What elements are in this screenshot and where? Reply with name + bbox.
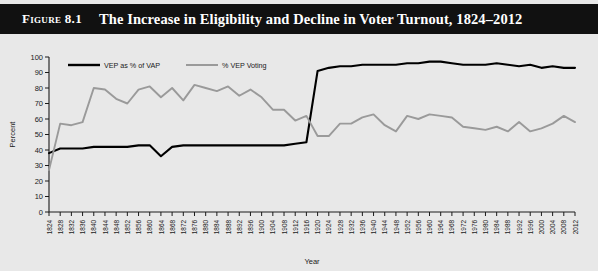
legend-label-1: VEP as % of VAP — [104, 61, 160, 70]
x-axis-tick-label: 1984 — [493, 220, 500, 235]
y-axis-tick-label: 60 — [35, 115, 43, 124]
y-axis-tick-label: 20 — [35, 177, 43, 186]
x-axis-tick-label: 1944 — [381, 220, 388, 235]
x-axis-tick-label: 1868 — [169, 220, 176, 235]
x-axis-tick-label: 1988 — [504, 220, 511, 235]
y-axis-tick-label: 70 — [35, 99, 43, 108]
y-axis-tick-label: 50 — [35, 130, 43, 139]
x-axis-tick-label: 1856 — [135, 220, 142, 235]
chart-plot-area: 0102030405060708090100Percent18241828183… — [0, 34, 598, 271]
x-axis-tick-label: 1908 — [281, 220, 288, 235]
x-axis-tick-label: 1956 — [415, 220, 422, 235]
x-axis-tick-label: 1828 — [57, 220, 64, 235]
x-axis-tick-label: 1980 — [482, 220, 489, 235]
y-axis-tick-label: 80 — [35, 84, 43, 93]
x-axis-tick-label: 2012 — [572, 220, 579, 235]
x-axis-title: Year — [304, 257, 320, 266]
x-axis-tick-label: 1852 — [124, 220, 131, 235]
x-axis-tick-label: 1884 — [213, 220, 220, 235]
x-axis-tick-label: 1960 — [426, 220, 433, 235]
x-axis-tick-label: 1912 — [292, 220, 299, 235]
x-axis-tick-label: 1900 — [258, 220, 265, 235]
x-axis-tick-label: 1996 — [527, 220, 534, 235]
x-axis-tick-label: 1896 — [247, 220, 254, 235]
y-axis-tick-label: 10 — [35, 192, 43, 201]
x-axis-tick-label: 1968 — [448, 220, 455, 235]
y-axis-tick-label: 90 — [35, 68, 43, 77]
x-axis-tick-label: 1860 — [146, 220, 153, 235]
x-axis-tick-label: 1844 — [102, 220, 109, 235]
x-axis-tick-label: 1920 — [314, 220, 321, 235]
x-axis-tick-label: 1824 — [46, 220, 53, 235]
chart-axes — [49, 57, 575, 212]
y-axis-title: Percent — [8, 121, 17, 148]
data-series-line-1 — [49, 62, 575, 157]
x-axis-tick-label: 1924 — [325, 220, 332, 235]
x-axis-tick-label: 1992 — [516, 220, 523, 235]
y-axis-tick-label: 30 — [35, 161, 43, 170]
line-chart: 0102030405060708090100Percent18241828183… — [0, 34, 598, 271]
x-axis-tick-label: 1928 — [337, 220, 344, 235]
y-axis-tick-label: 0 — [39, 208, 43, 217]
x-axis-tick-label: 1964 — [437, 220, 444, 235]
x-axis-tick-label: 1904 — [269, 220, 276, 235]
data-series-line-2 — [49, 85, 575, 170]
legend-label-2: % VEP Voting — [222, 61, 267, 70]
x-axis-tick-label: 1864 — [158, 220, 165, 235]
x-axis-tick-label: 1976 — [471, 220, 478, 235]
x-axis-tick-label: 1892 — [236, 220, 243, 235]
x-axis-tick-label: 1832 — [68, 220, 75, 235]
x-axis-tick-label: 1872 — [180, 220, 187, 235]
x-axis-tick-label: 1948 — [393, 220, 400, 235]
x-axis-tick-label: 2004 — [549, 220, 556, 235]
x-axis-tick-label: 1836 — [79, 220, 86, 235]
x-axis-tick-label: 2000 — [538, 220, 545, 235]
x-axis-tick-label: 1972 — [460, 220, 467, 235]
x-axis-tick-label: 1936 — [359, 220, 366, 235]
figure-container: Figure 8.1 The Increase in Eligibility a… — [0, 0, 598, 271]
x-axis-tick-label: 1932 — [348, 220, 355, 235]
figure-title: The Increase in Eligibility and Decline … — [99, 11, 523, 28]
y-axis-tick-label: 100 — [30, 53, 43, 62]
x-axis-tick-label: 1916 — [303, 220, 310, 235]
x-axis-tick-label: 1876 — [191, 220, 198, 235]
x-axis-tick-label: 1952 — [404, 220, 411, 235]
figure-number-label: Figure 8.1 — [22, 11, 82, 27]
figure-title-bar: Figure 8.1 The Increase in Eligibility a… — [0, 4, 598, 34]
x-axis-tick-label: 1880 — [202, 220, 209, 235]
x-axis-tick-label: 1840 — [90, 220, 97, 235]
x-axis-tick-label: 1940 — [370, 220, 377, 235]
x-axis-tick-label: 1848 — [113, 220, 120, 235]
x-axis-tick-label: 1888 — [225, 220, 232, 235]
x-axis-tick-label: 2008 — [560, 220, 567, 235]
y-axis-tick-label: 40 — [35, 146, 43, 155]
